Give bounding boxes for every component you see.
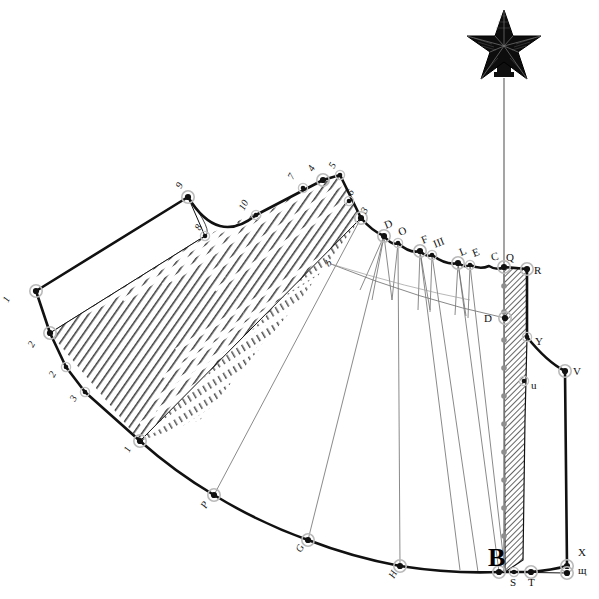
label-III: III — [431, 234, 446, 249]
label-D-top: D — [382, 217, 394, 231]
label-S: S — [510, 576, 516, 588]
label-u: u — [531, 379, 537, 391]
five-pointed-star-icon — [467, 10, 541, 79]
label-C: C — [490, 250, 500, 263]
construction-drawing: 9 10 8 7 4 5 6 3 D O F III L E C Q R Y V… — [0, 0, 599, 599]
label-L: L — [457, 244, 468, 258]
label-R: R — [534, 264, 542, 276]
label-7: 7 — [285, 170, 298, 180]
label-P: P — [198, 499, 211, 510]
label-left-1a: 1 — [0, 294, 12, 304]
label-sha: щ — [578, 564, 587, 576]
label-10: 10 — [236, 198, 250, 212]
label-E: E — [470, 245, 481, 259]
label-left-2b: 2 — [46, 369, 58, 379]
label-V: V — [573, 365, 581, 377]
label-Q: Q — [506, 251, 514, 263]
label-H: H — [386, 568, 400, 581]
label-O: O — [396, 224, 408, 238]
label-left-2a: 2 — [25, 339, 37, 349]
figure-canvas: 9 10 8 7 4 5 6 3 D O F III L E C Q R Y V… — [0, 0, 599, 599]
label-B-large: B — [488, 543, 505, 572]
label-X: X — [578, 546, 586, 558]
label-T: T — [528, 576, 535, 588]
label-D-mid: D — [484, 312, 492, 324]
label-F: F — [419, 232, 429, 245]
label-9: 9 — [173, 180, 185, 190]
label-5: 5 — [326, 160, 338, 170]
label-left-1b: 1 — [121, 444, 133, 454]
label-left-3a: 3 — [67, 393, 80, 403]
label-4: 4 — [305, 163, 317, 173]
label-Y: Y — [535, 335, 543, 347]
